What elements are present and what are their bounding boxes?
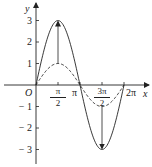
x-tick-label: 2π xyxy=(126,88,136,98)
x-tick-label: 3π2 xyxy=(94,87,110,108)
x-axis-label: x xyxy=(143,89,147,99)
fraction-numerator: π xyxy=(50,87,66,98)
x-tick-label: π xyxy=(72,88,77,98)
y-tick-label: 2 xyxy=(27,37,32,47)
y-tick-label: − 2 xyxy=(19,123,32,133)
y-tick-label: 1 xyxy=(27,59,32,69)
y-axis-label: y xyxy=(25,4,29,14)
x-tick-label: π2 xyxy=(50,87,66,108)
fraction-numerator: 3π xyxy=(94,87,110,98)
sine-chart xyxy=(0,0,152,167)
y-tick-label: − 3 xyxy=(19,145,32,155)
y-tick-label: 3 xyxy=(27,16,32,26)
axes xyxy=(4,3,149,164)
fraction-denominator: 2 xyxy=(94,98,110,108)
y-tick-label: − 1 xyxy=(19,102,32,112)
fraction-denominator: 2 xyxy=(50,98,66,108)
origin-label: O xyxy=(25,88,32,98)
